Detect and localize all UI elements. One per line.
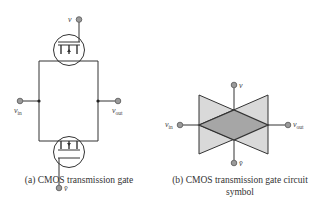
symbol-vin-terminal — [177, 122, 183, 128]
cmos-transmission-gate-circuit — [17, 17, 121, 191]
symbol-vout-terminal — [285, 122, 291, 128]
output-junction-dot — [96, 99, 99, 102]
symbol-label-vout: vout — [293, 120, 304, 130]
symbol-label-v: v — [239, 81, 243, 90]
vin-terminal — [17, 98, 23, 104]
transmission-gate-symbol — [177, 82, 291, 166]
gate-v-terminal — [76, 17, 82, 23]
right-wire — [85, 61, 98, 141]
caption-a: (a) CMOS transmission gate — [4, 174, 154, 186]
pmos-transistor-icon — [53, 22, 85, 66]
symbol-label-vin: vin — [165, 120, 173, 130]
symbol-v-terminal — [231, 82, 237, 88]
label-v-top: v — [68, 15, 72, 24]
symbol-label-vbar: v̄ — [239, 159, 243, 168]
symbol-vbar-terminal — [231, 160, 237, 166]
caption-b-line2: symbol — [226, 187, 254, 197]
caption-b: (b) CMOS transmission gate circuit symbo… — [165, 174, 315, 198]
gate-vbar-terminal — [56, 185, 62, 191]
label-vout: vout — [112, 106, 123, 116]
left-wire — [39, 61, 53, 141]
caption-b-line1: (b) CMOS transmission gate circuit — [172, 175, 308, 185]
label-vin: vin — [14, 106, 22, 116]
input-junction-dot — [37, 99, 40, 102]
vout-terminal — [115, 98, 121, 104]
